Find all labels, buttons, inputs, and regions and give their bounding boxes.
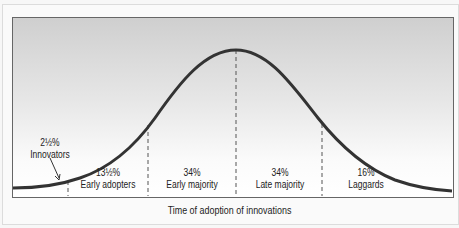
segment-late-majority: 34% Late majority <box>246 167 314 191</box>
innovators-pointer-arrow <box>50 158 59 178</box>
segment-percent: 34% <box>158 167 226 179</box>
segment-innovators: 2½% Innovators <box>26 137 74 161</box>
segment-label: Early majority <box>158 179 226 191</box>
segment-early-adopters: 13½% Early adopters <box>77 167 138 191</box>
segment-label: Laggards <box>341 179 392 191</box>
segment-label: Innovators <box>26 149 74 161</box>
segment-percent: 16% <box>341 167 392 179</box>
segment-percent: 13½% <box>77 167 138 179</box>
segment-label: Late majority <box>246 179 314 191</box>
segment-label: Early adopters <box>77 179 138 191</box>
x-axis-label: Time of adoption of innovations <box>34 204 424 216</box>
segment-laggards: 16% Laggards <box>341 167 392 191</box>
segment-percent: 2½% <box>26 137 74 149</box>
segment-percent: 34% <box>246 167 314 179</box>
bell-curve-graphic <box>0 0 459 228</box>
segment-early-majority: 34% Early majority <box>158 167 226 191</box>
